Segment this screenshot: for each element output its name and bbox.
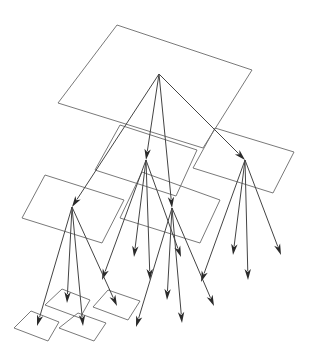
edges-layer — [37, 74, 281, 327]
edge-line — [72, 207, 82, 317]
edge-n_left-to-leaf_c — [72, 207, 85, 326]
edge-line — [172, 208, 181, 314]
edge-line — [146, 160, 178, 249]
edge-n_mid_back-to-free_1 — [132, 160, 146, 257]
edge-root-to-n_mid_back — [144, 74, 159, 160]
edge-line — [105, 160, 146, 272]
edge-n_mid_front-to-free_6 — [172, 208, 184, 323]
edge-line — [234, 160, 245, 246]
edge-line — [72, 207, 113, 298]
edge-line — [245, 160, 278, 247]
arrowhead-icon — [110, 295, 117, 306]
plane-n_right — [193, 128, 294, 193]
edge-line — [139, 208, 172, 318]
edge-n_mid_front-to-free_8 — [172, 208, 214, 306]
plane-leaf_c — [59, 313, 106, 341]
edge-line — [147, 74, 159, 151]
edge-n_right-to-free_12 — [201, 160, 245, 282]
edge-n_mid_front-to-free_7 — [136, 208, 172, 327]
edge-n_mid_back-to-free_2 — [146, 160, 153, 280]
edge-n_right-to-free_10 — [245, 160, 251, 280]
edge-line — [172, 208, 210, 298]
edge-root-to-n_mid_front — [159, 74, 174, 208]
edge-line — [135, 160, 146, 248]
plane-leaf_b — [14, 311, 59, 341]
edge-line — [204, 160, 245, 274]
edge-root-to-n_left — [72, 74, 159, 207]
edge-line — [245, 160, 248, 271]
tree-diagram — [0, 0, 309, 358]
edge-n_right-to-free_11 — [245, 160, 281, 255]
plane-root — [58, 25, 252, 148]
edge-n_mid_back-to-free_4 — [102, 160, 146, 280]
arrowhead-icon — [72, 196, 81, 207]
edge-root-to-n_right — [159, 74, 245, 160]
edge-n_mid_back-to-free_3 — [146, 160, 181, 257]
edge-n_right-to-free_9 — [231, 160, 245, 255]
edge-line — [146, 160, 150, 271]
